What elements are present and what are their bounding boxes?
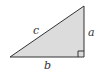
right-triangle-diagram: c a b	[0, 0, 97, 76]
horizontal-leg-label: b	[44, 60, 51, 71]
triangle-shape	[10, 6, 84, 57]
hypotenuse-label: c	[33, 25, 39, 36]
vertical-leg-label: a	[88, 27, 95, 38]
